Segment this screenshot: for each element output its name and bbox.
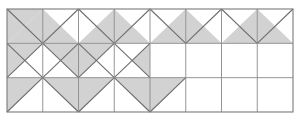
- grid-triangle-diagram: [0, 0, 301, 121]
- figure-root: [0, 0, 301, 121]
